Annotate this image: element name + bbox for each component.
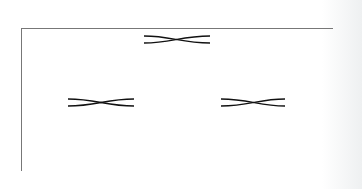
knitting-chart-grid xyxy=(21,28,333,171)
